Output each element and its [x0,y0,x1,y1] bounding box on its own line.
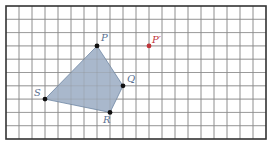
grid-lines-overlay [6,6,266,139]
point-q-dot [121,83,126,88]
point-p-dot [95,44,100,49]
point-s-dot [43,97,48,102]
point-r-label: R [102,114,111,125]
coordinate-grid-diagram: PQRSP′ [0,0,269,152]
point-p-prime-label: P′ [151,34,162,45]
point-p-label: P [100,32,108,43]
point-s-label: S [34,87,41,98]
point-p-prime-dot [147,44,152,49]
point-q-label: Q [127,73,135,84]
